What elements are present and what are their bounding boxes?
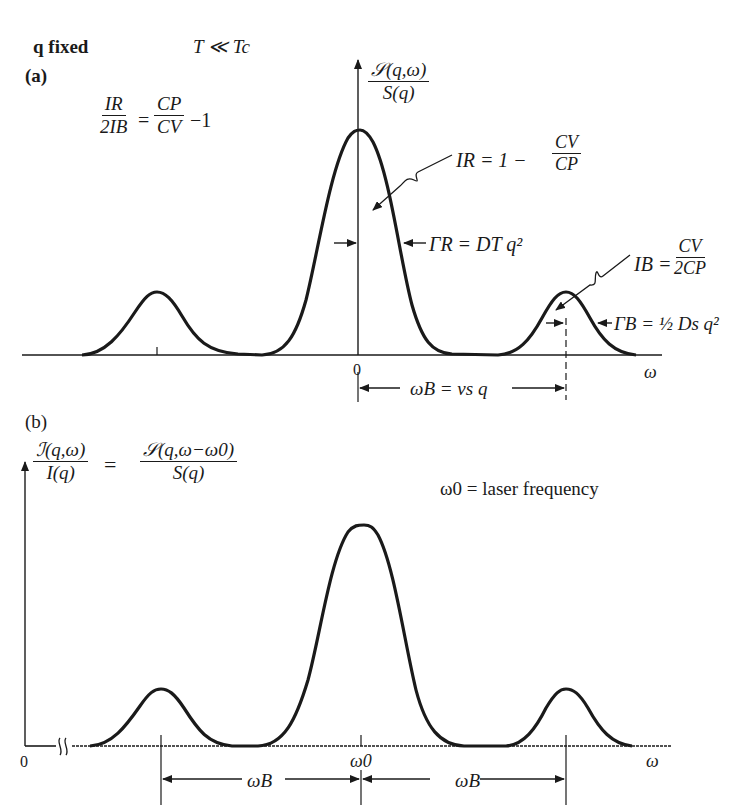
panel-b-y-axis-label-lhs: ℐ(q,ω) I(q) (33, 440, 88, 483)
ratio-denominator: 2IB (100, 116, 127, 137)
brillouin-frac-denominator: 2CP (674, 258, 706, 278)
panel-b-equals: = (104, 454, 116, 476)
panel-b-origin-label: 0 (20, 754, 28, 770)
intensity-ratio-rhs: CP CV (154, 94, 184, 137)
ratio-rhs-numerator: CP (154, 94, 184, 116)
rhs-numerator: 𝒮(q,ω−ω0) (140, 440, 237, 462)
panel-b-right-shift-label: ωB (455, 771, 480, 790)
q-fixed-label: q fixed (33, 37, 88, 56)
panel-b-left-shift-label: ωB (247, 771, 272, 790)
ratio-tail: −1 (190, 110, 211, 130)
brillouin-intensity-fraction: CV 2CP (674, 237, 706, 278)
panel-a-y-axis-label: 𝒮(q,ω) S(q) (368, 60, 429, 103)
y-axis-numerator: 𝒮(q,ω) (368, 60, 429, 82)
rayleigh-frac-numerator: CV (552, 133, 581, 154)
lhs-denominator: I(q) (46, 462, 74, 483)
brillouin-intensity-pointer (556, 255, 630, 310)
panel-b-x-axis-label: ω (646, 752, 659, 770)
panel-b-spectrum-curve (90, 525, 632, 746)
y-axis-denominator: S(q) (383, 82, 415, 103)
rayleigh-frac-denominator: CP (555, 154, 578, 174)
ratio-numerator: IR (102, 94, 126, 116)
brillouin-intensity-label: IB = (634, 254, 671, 274)
ratio-equals: = (138, 110, 149, 130)
brillouin-shift-label: ωB = vs q (410, 379, 487, 398)
rayleigh-intensity-fraction: CV CP (552, 133, 581, 174)
panel-b-label: (b) (25, 412, 47, 431)
panel-a-label: (a) (25, 66, 47, 85)
brillouin-width-label: ΓB = ½ Ds q² (614, 314, 719, 333)
rayleigh-width-label: ΓR = DT q² (429, 234, 522, 254)
axis-break-icon (59, 738, 67, 755)
panel-b-plot (25, 462, 672, 805)
rayleigh-intensity-label: IR = 1 − (456, 150, 527, 170)
temperature-condition: T ≪ Tc (193, 37, 250, 56)
ratio-rhs-denominator: CV (157, 116, 181, 137)
panel-b-y-axis-label-rhs: 𝒮(q,ω−ω0) S(q) (140, 440, 237, 483)
panel-a-x-axis-label: ω (644, 363, 657, 381)
panel-b-center-label: ω0 (350, 752, 372, 770)
brillouin-frac-numerator: CV (676, 237, 705, 258)
panel-a-origin-label: 0 (353, 362, 361, 378)
laser-frequency-note: ω0 = laser frequency (440, 479, 599, 498)
rhs-denominator: S(q) (173, 462, 205, 483)
lhs-numerator: ℐ(q,ω) (33, 440, 88, 462)
intensity-ratio-lhs: IR 2IB (100, 94, 127, 137)
